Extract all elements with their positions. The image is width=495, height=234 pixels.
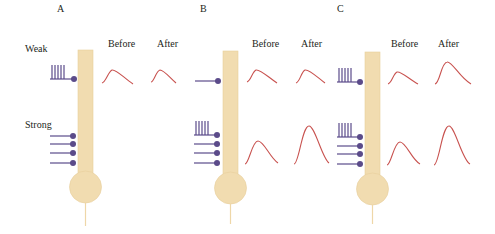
trace-a-weak-before: [102, 70, 133, 84]
trace-c-strong-before: [387, 142, 420, 165]
panel-label-c: C: [337, 3, 344, 15]
weak-input-b: [195, 78, 221, 84]
weak-label: Weak: [25, 43, 48, 55]
strong-inputs-a: [50, 133, 76, 166]
panel-label-b: B: [200, 3, 207, 15]
trace-a-weak-after: [151, 70, 176, 83]
header-before-c: Before: [391, 38, 418, 50]
weak-input-c: [337, 68, 363, 85]
trace-b-weak-after: [296, 70, 325, 83]
strong-label: Strong: [25, 119, 52, 131]
panel-label-a: A: [57, 3, 64, 15]
trace-c-weak-after: [435, 62, 471, 84]
diagram-canvas: [0, 0, 495, 234]
header-after-a: After: [157, 38, 178, 50]
trace-c-strong-after: [434, 126, 470, 165]
weak-input-a: [50, 65, 77, 82]
strong-inputs-c: [337, 123, 363, 167]
trace-c-weak-before: [388, 72, 418, 84]
neuron-b: [215, 51, 247, 224]
header-before-a: Before: [108, 38, 135, 50]
trace-b-strong-after: [294, 126, 329, 164]
trace-b-strong-before: [245, 141, 278, 164]
header-before-b: Before: [252, 38, 279, 50]
trace-b-weak-before: [247, 70, 277, 83]
strong-inputs-b: [194, 121, 220, 166]
header-after-b: After: [301, 38, 322, 50]
header-after-c: After: [438, 38, 459, 50]
